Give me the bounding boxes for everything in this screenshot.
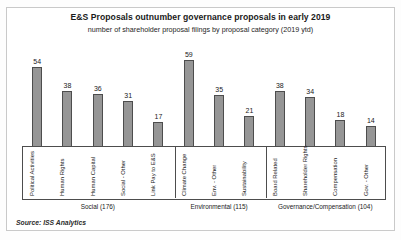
- category-label: Sustainability: [241, 161, 247, 196]
- category-label-slot: Board Related: [266, 147, 296, 198]
- bar: [153, 122, 163, 147]
- bar-value-label: 17: [143, 113, 173, 120]
- category-label: Human Rights: [59, 159, 65, 196]
- category-label: Gov. - Other: [363, 164, 369, 196]
- category-label: Climate Change: [181, 154, 187, 196]
- category-label-slot: Env. - Other: [205, 147, 235, 198]
- category-label: Shareholder Rights: [302, 146, 308, 196]
- group-label: Governance/Compensation (104): [265, 203, 386, 210]
- bar: [366, 126, 376, 147]
- bar-value-label: 38: [52, 82, 82, 89]
- bar-value-label: 35: [204, 86, 234, 93]
- bar-value-label: 18: [325, 111, 355, 118]
- bar-slot: 17: [143, 40, 173, 147]
- bar-value-label: 34: [295, 88, 325, 95]
- bar: [93, 94, 103, 147]
- category-label-slot: Shareholder Rights: [296, 147, 326, 198]
- bar-slot: 35: [204, 40, 234, 147]
- bar: [123, 101, 133, 147]
- group-separator: [175, 147, 176, 198]
- category-label: Human Capital: [90, 157, 96, 196]
- category-label-slot: Political Activities: [23, 147, 53, 198]
- category-label: Link Pay to E&S: [150, 153, 156, 196]
- bar-slot: 21: [234, 40, 264, 147]
- group-separator: [266, 147, 267, 198]
- group-label: Environmental (115): [174, 203, 265, 210]
- bar: [275, 91, 285, 147]
- category-label: Political Activities: [29, 151, 35, 196]
- category-label-slot: Gov. - Other: [357, 147, 387, 198]
- bar: [62, 91, 72, 147]
- bar-value-label: 31: [113, 92, 143, 99]
- chart-title: E&S Proposals outnumber governance propo…: [0, 12, 401, 22]
- bar-value-label: 59: [174, 51, 204, 58]
- source-note: Source: ISS Analytics: [16, 219, 86, 226]
- category-label-slot: Sustainability: [235, 147, 265, 198]
- category-label-slot: Link Pay to E&S: [144, 147, 174, 198]
- bar-value-label: 14: [356, 117, 386, 124]
- bar-slot: 59: [174, 40, 204, 147]
- bar-slot: 18: [325, 40, 355, 147]
- category-label: Board Related: [272, 158, 278, 196]
- bar-value-label: 38: [265, 82, 295, 89]
- plot-area: 543836311759352138341814: [22, 40, 386, 147]
- category-label: Compensation: [332, 158, 338, 196]
- group-label: Social (176): [22, 203, 174, 210]
- category-label-slot: Human Rights: [53, 147, 83, 198]
- bar-slot: 31: [113, 40, 143, 147]
- bar-slot: 36: [83, 40, 113, 147]
- bar: [305, 97, 315, 147]
- bar-slot: 14: [356, 40, 386, 147]
- bar-slot: 38: [265, 40, 295, 147]
- category-label-slot: Social - Other: [114, 147, 144, 198]
- bar: [335, 120, 345, 147]
- bar: [184, 60, 194, 147]
- category-label: Social - Other: [120, 160, 126, 196]
- bar-slot: 34: [295, 40, 325, 147]
- category-label-slot: Human Capital: [84, 147, 114, 198]
- chart-subtitle: number of shareholder proposal filings b…: [0, 25, 401, 34]
- chart-figure: E&S Proposals outnumber governance propo…: [0, 0, 401, 240]
- bar-value-label: 36: [83, 85, 113, 92]
- bar: [244, 116, 254, 147]
- bar-slot: 54: [22, 40, 52, 147]
- category-label-slot: Compensation: [326, 147, 356, 198]
- bar: [214, 95, 224, 147]
- category-label: Env. - Other: [211, 165, 217, 196]
- bar: [32, 67, 42, 147]
- category-label-slot: Climate Change: [175, 147, 205, 198]
- bar-value-label: 54: [22, 58, 52, 65]
- category-label-box: Political ActivitiesHuman RightsHuman Ca…: [22, 147, 386, 200]
- bar-slot: 38: [52, 40, 82, 147]
- bar-value-label: 21: [234, 107, 264, 114]
